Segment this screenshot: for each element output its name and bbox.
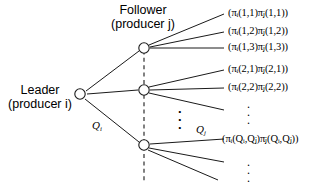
leader-role-line2: (producer i) xyxy=(0,98,80,112)
leader-edge-top xyxy=(86,51,139,91)
f3-edge-1 xyxy=(150,139,224,144)
center-vertical-ellipsis-icon: ... xyxy=(178,105,182,129)
q-leader-base: Q xyxy=(92,119,100,131)
q-leader-label: Qi xyxy=(92,120,102,132)
follower-role-line1: Follower xyxy=(119,3,166,17)
f2-edge-2 xyxy=(150,88,224,90)
payoff-label-1-1: (πᵢ(1,1)πⱼ(1,1)) xyxy=(228,7,288,18)
follower3-branches xyxy=(148,139,224,180)
q-follower-base: Q xyxy=(196,123,204,135)
follower-role-label: Follower (producer j) xyxy=(101,4,185,31)
follower-node-3 xyxy=(139,140,149,150)
payoff-label-2-1: (πᵢ(2,1)πⱼ(2,1)) xyxy=(228,63,288,74)
stackelberg-game-tree-figure: Follower (producer j) Leader (producer i… xyxy=(0,0,316,184)
q-leader-sub: i xyxy=(100,125,102,133)
follower-node-2 xyxy=(139,85,149,95)
follower-role-line2: (producer j) xyxy=(101,18,185,32)
right-lower-ellipsis-icon: ... xyxy=(247,158,250,182)
q-follower-sub: j xyxy=(204,129,206,137)
leader-role-label: Leader (producer i) xyxy=(0,84,80,111)
leader-edge-mid xyxy=(87,90,138,94)
payoff-label-2-2: (πᵢ(2,2)πⱼ(2,2)) xyxy=(228,81,288,92)
follower2-branches xyxy=(149,70,224,110)
right-upper-ellipsis-icon: ... xyxy=(247,100,250,124)
f2-edge-1 xyxy=(149,70,224,87)
payoff-label-Q-Q: (πᵢ(Qᵢ,Qⱼ)πⱼ(Qᵢ,Qⱼ)) xyxy=(222,133,298,144)
f2-edge-3 xyxy=(149,93,224,110)
payoff-label-1-2: (πᵢ(1,2)πⱼ(1,2)) xyxy=(228,25,288,36)
payoff-label-1-3: (πᵢ(1,3)πⱼ(1,3)) xyxy=(228,41,288,52)
q-follower-label: Qj xyxy=(196,124,206,136)
leader-role-line1: Leader xyxy=(21,83,60,97)
follower-node-1 xyxy=(139,43,149,53)
